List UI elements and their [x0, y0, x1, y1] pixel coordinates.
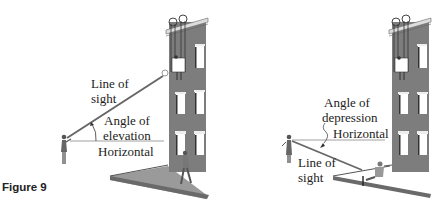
line-of-sight-label-line1: Line of: [91, 76, 129, 91]
observer: [282, 135, 292, 163]
angle-of-depression-label-line1: Angle of: [324, 95, 370, 110]
left-panel: [61, 15, 209, 199]
building: [166, 15, 208, 172]
line-of-sight-label-line2: sight: [91, 91, 116, 106]
line-of-sight-label-line1: Line of: [298, 155, 336, 170]
angle-of-depression-label-line2: depression: [322, 110, 378, 125]
figure: Line of sight Angle of elevation Horizon…: [0, 0, 445, 210]
building: [389, 15, 431, 172]
angle-arc: [92, 124, 96, 141]
line-of-sight-label-line2: sight: [298, 170, 323, 185]
angle-of-elevation-label-line1: Angle of: [104, 113, 150, 128]
figure-caption: Figure 9: [2, 181, 47, 193]
observer: [61, 135, 71, 164]
horizontal-label: Horizontal: [333, 126, 389, 141]
angle-of-elevation-label-line2: elevation: [103, 128, 151, 143]
horizontal-label: Horizontal: [98, 144, 154, 159]
